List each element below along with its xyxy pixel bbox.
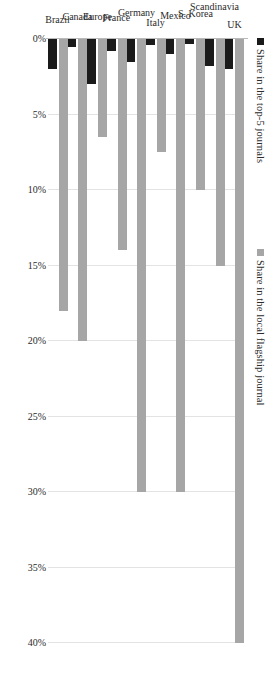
category-label: Canada [68,0,88,36]
legend-label-top5: Share in the top-5 journals [255,49,266,163]
category-label-text: Brazil [46,13,70,24]
bar-chart: Share in the top-5 journals Share in the… [0,0,270,680]
bar-groups [48,38,244,642]
bar-series-top5 [48,39,57,69]
bar-group [68,38,88,642]
legend-item-flagship: Share in the local flagship journal [255,249,266,406]
category-label-text: UK [227,18,241,29]
bar-series-top5 [224,39,233,69]
bar-series-flagship [137,39,146,492]
tick-label: 10% [28,184,46,195]
tick-label: 15% [28,259,46,270]
bar-series-flagship [118,39,127,250]
gridline [48,642,244,643]
plot-area [48,38,244,642]
legend-swatch-icon-top5 [257,38,264,45]
bar-group [185,38,205,642]
category-axis-labels: UKScandinaviaS. KoreaMexicoItalyGermanyF… [48,0,244,36]
tick-label: 5% [33,108,46,119]
bar-series-top5 [165,39,174,54]
value-axis-tick-labels: 0%5%10%15%20%25%30%35%40% [6,38,46,642]
tick-label: 35% [28,561,46,572]
bar-group [87,38,107,642]
legend-item-top5: Share in the top-5 journals [255,38,266,163]
bar-group [205,38,225,642]
category-label-text: Mexico [160,10,191,21]
legend-label-flagship: Share in the local flagship journal [255,260,266,406]
bar-series-top5 [107,39,116,51]
tick-label: 25% [28,410,46,421]
bar-series-flagship [216,39,225,266]
bar-series-flagship [98,39,107,137]
bar-series-top5 [185,39,194,44]
bar-series-flagship [78,39,87,341]
bar-series-top5 [126,39,135,62]
bar-series-flagship [176,39,185,492]
tick-label: 40% [28,637,46,648]
bar-group [126,38,146,642]
tick-label: 30% [28,486,46,497]
rotated-figure-container: Share in the top-5 journals Share in the… [0,0,270,680]
bar-series-top5 [205,39,214,66]
tick-label: 20% [28,335,46,346]
category-label: Brazil [48,0,68,36]
bar-group [146,38,166,642]
bar-series-top5 [67,39,76,47]
bar-group [107,38,127,642]
category-label: Mexico [166,0,186,36]
legend-swatch-icon-flagship [257,249,264,256]
bar-series-top5 [87,39,96,84]
bar-series-flagship [235,39,244,643]
bar-series-flagship [157,39,166,152]
bar-series-top5 [146,39,155,45]
tick-label: 0% [33,33,46,44]
bar-group [166,38,186,642]
chart-legend: Share in the top-5 journals Share in the… [255,38,266,406]
bar-group [48,38,68,642]
bar-series-flagship [196,39,205,190]
bar-series-flagship [59,39,68,311]
bar-group [224,38,244,642]
